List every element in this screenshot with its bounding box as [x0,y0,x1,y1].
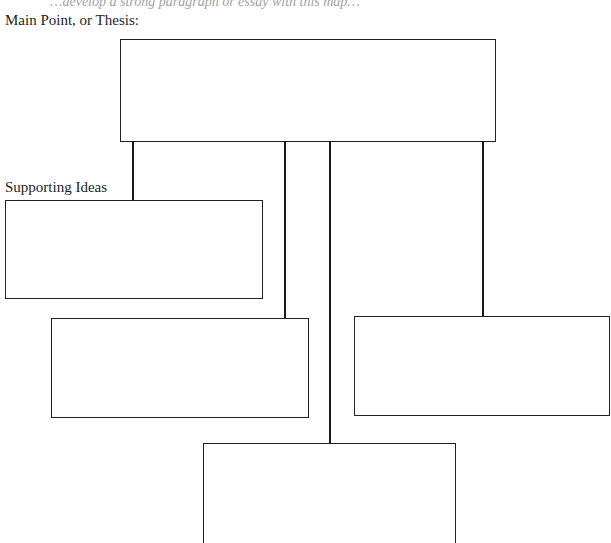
supporting-ideas-label: Supporting Ideas [5,179,107,196]
cut-off-heading-text: …develop a strong paragraph or essay wit… [50,0,360,10]
thesis-label: Main Point, or Thesis: [5,12,139,29]
main-point-box[interactable] [120,39,496,142]
supporting-idea-box-2[interactable] [51,318,309,418]
supporting-idea-box-3[interactable] [354,316,610,416]
supporting-idea-box-4[interactable] [203,443,456,543]
connector-line-4 [329,141,331,444]
connector-line-3 [482,141,484,317]
supporting-idea-box-1[interactable] [5,200,263,299]
connector-line-2 [284,141,286,319]
connector-line-1 [132,141,134,201]
